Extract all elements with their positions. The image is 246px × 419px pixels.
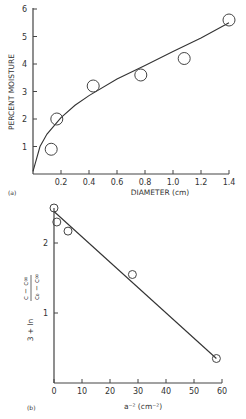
x-tick-label: 30 <box>133 387 143 396</box>
data-point <box>45 143 57 155</box>
svg-text:c − c∞: c − c∞ <box>22 276 30 300</box>
panel-label: (b) <box>27 404 36 411</box>
panel-b-log-ratio-vs-inverse-square: 010203040506012a⁻² (cm⁻²)(b)3 + lnc − c∞… <box>22 204 227 411</box>
y-axis-label: 3 + lnc − c∞c₀ − c∞ <box>22 273 41 341</box>
data-point <box>135 69 147 81</box>
data-point <box>87 80 99 92</box>
x-tick-label: 20 <box>105 387 115 396</box>
x-tick-label: 0.6 <box>111 178 124 187</box>
x-tick-label: 0.4 <box>83 178 96 187</box>
x-tick-label: 40 <box>161 387 171 396</box>
y-tick-label: 1 <box>22 143 27 152</box>
y-tick-label: 2 <box>43 239 48 248</box>
y-tick-label: 4 <box>22 60 27 69</box>
data-point <box>178 53 190 65</box>
x-tick-label: 1.0 <box>167 178 180 187</box>
fit-curve <box>33 23 229 172</box>
data-point <box>64 227 72 235</box>
x-tick-label: 1.2 <box>195 178 208 187</box>
y-tick-label: 6 <box>22 5 27 14</box>
y-tick-label: 2 <box>22 115 27 124</box>
figure: 0.20.40.60.81.01.21.4123456DIAMETER (cm)… <box>0 0 246 419</box>
data-point <box>128 271 136 279</box>
y-axis-label: PERCENT MOISTURE <box>7 54 16 130</box>
x-tick-label: 60 <box>217 387 227 396</box>
y-tick-label: 5 <box>22 33 27 42</box>
x-axis-label: a⁻² (cm⁻²) <box>124 402 162 411</box>
fit-curve <box>54 212 216 359</box>
svg-text:c₀ − c∞: c₀ − c∞ <box>33 273 41 300</box>
data-point <box>223 14 235 26</box>
panel-label: (a) <box>8 189 16 196</box>
x-tick-label: 1.4 <box>223 178 236 187</box>
panel-a-moisture-vs-diameter: 0.20.40.60.81.01.21.4123456DIAMETER (cm)… <box>7 5 235 197</box>
y-tick-label: 3 <box>22 88 27 97</box>
x-tick-label: 10 <box>77 387 87 396</box>
y-tick-label: 1 <box>43 309 48 318</box>
x-tick-label: 0.2 <box>55 178 68 187</box>
x-tick-label: 50 <box>189 387 199 396</box>
x-tick-label: 0.8 <box>139 178 152 187</box>
svg-text:3 + ln: 3 + ln <box>26 318 35 341</box>
x-tick-label: 0 <box>51 387 56 396</box>
x-axis-label: DIAMETER (cm) <box>131 188 190 197</box>
